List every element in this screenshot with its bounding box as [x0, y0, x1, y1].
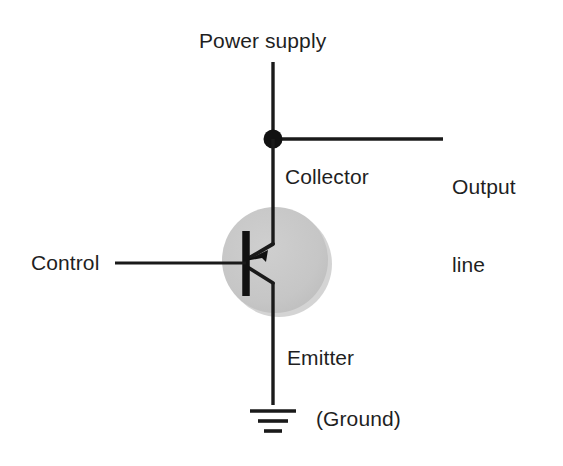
transistor-circuit-diagram: Power supply Output line Collector Contr… — [0, 0, 563, 466]
transistor-body-circle — [222, 207, 328, 313]
emitter-label: Emitter — [287, 345, 354, 370]
ground-symbol — [250, 411, 296, 431]
output-line-label-row1: Output — [452, 174, 516, 200]
control-label: Control — [31, 250, 99, 275]
power-supply-label: Power supply — [199, 28, 326, 53]
ground-label: (Ground) — [316, 406, 401, 431]
output-line-label: Output line — [452, 122, 516, 330]
output-line-label-row2: line — [452, 252, 516, 278]
collector-label: Collector — [285, 164, 369, 189]
